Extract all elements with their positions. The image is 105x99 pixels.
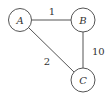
node-c: C — [71, 68, 95, 92]
node-b-label: B — [78, 15, 86, 26]
edge-weight-a-b: 1 — [49, 6, 55, 17]
node-a-label: A — [15, 15, 23, 26]
node-a: A — [9, 9, 32, 32]
edge-weight-b-c: 10 — [92, 46, 105, 57]
node-b: B — [71, 8, 95, 32]
edge-weight-a-c: 2 — [44, 56, 50, 67]
weighted-graph-diagram: 1 2 10 A B C — [0, 0, 105, 99]
edge-a-c — [29, 28, 74, 72]
node-c-label: C — [79, 75, 87, 86]
